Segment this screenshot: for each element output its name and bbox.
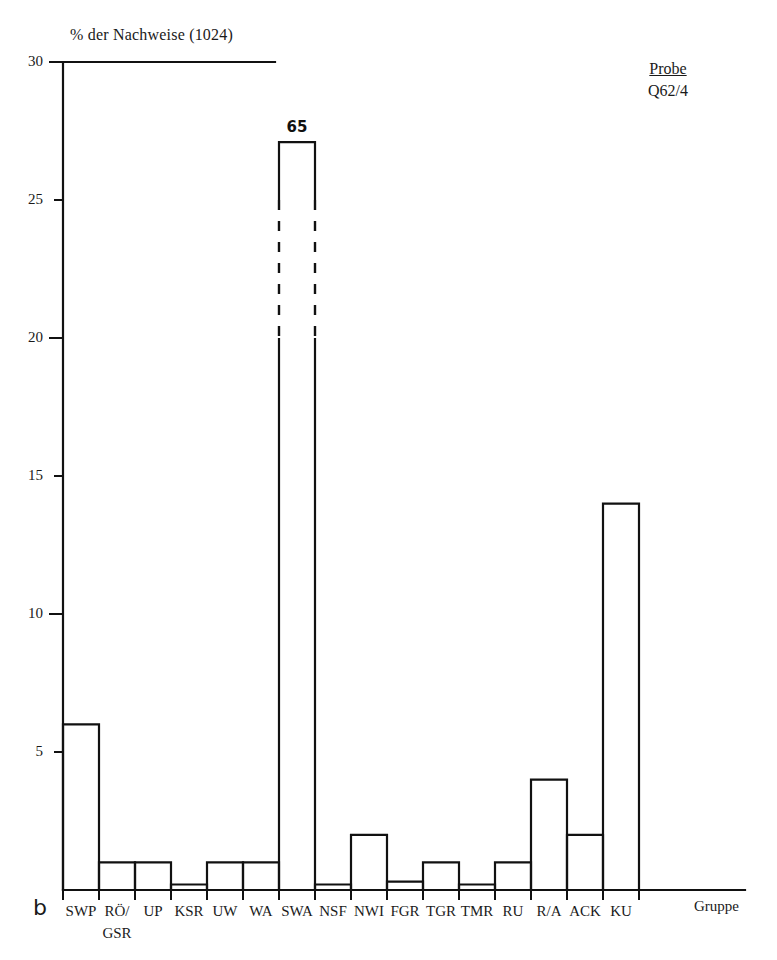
bar-rect: [99, 862, 135, 890]
bar-rect: [207, 862, 243, 890]
bar-nwi[interactable]: [351, 835, 387, 890]
x-tick-label: KU: [610, 903, 632, 919]
x-tick-label: RÖ/: [104, 903, 130, 919]
x-tick-label: TMR: [461, 903, 494, 919]
x-tick-label: SWP: [66, 903, 97, 919]
x-tick-label-line2: GSR: [102, 925, 131, 941]
x-tick-label: NSF: [319, 903, 347, 919]
bar-swa[interactable]: [279, 142, 315, 890]
bar-r[interactable]: [99, 862, 135, 890]
bar-segment-top: [279, 142, 315, 200]
bar-rect: [63, 724, 99, 890]
x-tick-label: ACK: [569, 903, 601, 919]
bar-rect: [423, 862, 459, 890]
bar-uw[interactable]: [207, 862, 243, 890]
x-tick-label: R/A: [536, 903, 561, 919]
bar-rect: [531, 780, 567, 890]
y-tick-label: 10: [28, 605, 43, 621]
bar-rect: [387, 882, 423, 890]
x-tick-label: RU: [503, 903, 524, 919]
y-tick-label: 25: [28, 191, 43, 207]
x-tick-label: NWI: [354, 903, 384, 919]
y-tick-label: 20: [28, 329, 43, 345]
x-tick-label: WA: [249, 903, 272, 919]
bars-layer: [63, 142, 639, 890]
bar-rect: [243, 862, 279, 890]
y-tick-label: 5: [36, 743, 44, 759]
bar-rect: [351, 835, 387, 890]
bar-chart-plot: 51015202530 65 SWPRÖ/GSRUPKSRUWWASWANSFN…: [0, 0, 777, 960]
x-tick-label: SWA: [281, 903, 313, 919]
bar-value-label: 65: [287, 118, 308, 136]
bar-up[interactable]: [135, 862, 171, 890]
bar-rect: [603, 504, 639, 890]
bar-rect: [567, 835, 603, 890]
x-tick-label: TGR: [426, 903, 456, 919]
x-tick-label: KSR: [174, 903, 203, 919]
bar-rect: [135, 862, 171, 890]
x-tick-label: UP: [143, 903, 162, 919]
bar-swp[interactable]: [63, 724, 99, 890]
x-tick-label: UW: [213, 903, 239, 919]
bar-tgr[interactable]: [423, 862, 459, 890]
bar-ru[interactable]: [495, 862, 531, 890]
y-tick-label: 30: [28, 53, 43, 69]
bar-ack[interactable]: [567, 835, 603, 890]
axes-layer: 51015202530: [28, 53, 745, 890]
bar-ra[interactable]: [531, 780, 567, 890]
value-labels-layer: 65: [287, 118, 308, 136]
bar-ku[interactable]: [603, 504, 639, 890]
figure-panel: % der Nachweise (1024) Probe Q62/4 b Gru…: [0, 0, 777, 960]
bar-fgr[interactable]: [387, 882, 423, 890]
bar-rect: [495, 862, 531, 890]
x-tick-label: FGR: [390, 903, 419, 919]
y-tick-label: 15: [28, 467, 43, 483]
bar-wa[interactable]: [243, 862, 279, 890]
x-tick-labels-layer: SWPRÖ/GSRUPKSRUWWASWANSFNWIFGRTGRTMRRUR/…: [63, 890, 639, 941]
